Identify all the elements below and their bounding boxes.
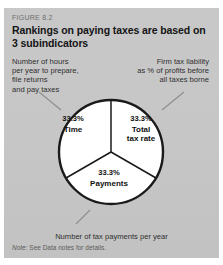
figure-note-text: See Data notes for details. <box>28 244 107 251</box>
pie-slice-name-payments: Payments <box>78 179 140 189</box>
pie-slice-name-total-tax-rate-line-2: tax rate <box>116 134 166 144</box>
pie-slice-percent-payments: 33.3% <box>78 168 140 178</box>
figure-container: FIGURE 8.2 Rankings on paying taxes are … <box>0 0 223 265</box>
leader-line-payments <box>76 210 90 224</box>
figure-number-label: FIGURE 8.2 <box>12 14 53 21</box>
pie-chart: 33.3% Time 33.3% Total tax rate 33.3% Pa… <box>4 86 219 231</box>
pie-slice-percent-time: 33.3% <box>50 114 96 124</box>
leader-line-total-tax-rate <box>162 92 184 110</box>
figure-title-line-1: Rankings on paying taxes are based on <box>12 24 206 36</box>
annotation-total-tax-rate-description: Firm tax liability as % of profits befor… <box>109 57 209 85</box>
figure-title: Rankings on paying taxes are based on 3 … <box>12 24 212 49</box>
pie-slice-label-time: 33.3% Time <box>50 114 96 134</box>
figure-note-label: Note: <box>12 244 28 251</box>
figure-panel: FIGURE 8.2 Rankings on paying taxes are … <box>4 8 219 258</box>
leader-line-time <box>39 92 61 110</box>
figure-title-line-2: 3 subindicators <box>12 37 212 50</box>
figure-note: Note: See Data notes for details. <box>12 244 106 251</box>
pie-slice-percent-total-tax-rate: 33.3% <box>116 114 166 124</box>
pie-slice-label-payments: 33.3% Payments <box>78 168 140 188</box>
pie-chart-svg <box>4 86 219 231</box>
pie-slice-name-total-tax-rate-line-1: Total <box>116 125 166 135</box>
annotation-payments-description: Number of tax payments per year <box>4 232 219 241</box>
pie-slice-label-total-tax-rate: 33.3% Total tax rate <box>116 114 166 144</box>
pie-slice-name-time: Time <box>50 125 96 135</box>
